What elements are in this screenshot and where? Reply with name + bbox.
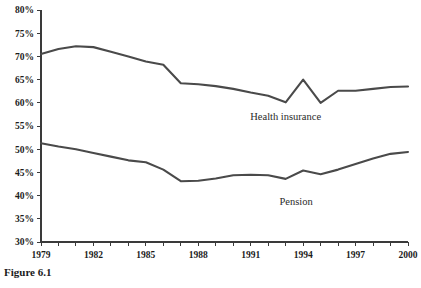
x-axis-tick-label: 1982	[84, 250, 103, 260]
data-series-line-1	[41, 46, 408, 103]
y-axis-tick-label: 35%	[15, 214, 34, 224]
y-axis-tick-label: 80%	[15, 5, 34, 15]
y-axis-tick-label: 45%	[15, 168, 34, 178]
x-axis-tick-label: 1997	[346, 250, 365, 260]
data-series-line-2	[41, 143, 408, 181]
y-axis-tick-label: 30%	[15, 237, 34, 247]
y-axis-tick-label: 60%	[15, 98, 34, 108]
x-axis-tick-label: 1994	[294, 250, 313, 260]
x-axis-tick-label: 1985	[136, 250, 155, 260]
x-axis-tick-label: 2000	[399, 250, 418, 260]
series-annotation-2: Pension	[280, 196, 314, 207]
y-axis-tick-label: 65%	[15, 75, 34, 85]
y-axis-tick-label: 55%	[15, 121, 34, 131]
line-chart: 30%35%40%45%50%55%60%65%70%75%80%1979198…	[0, 0, 421, 260]
x-axis-tick-label: 1991	[241, 250, 260, 260]
y-axis-tick-label: 70%	[15, 52, 34, 62]
y-axis-tick-label: 50%	[15, 145, 34, 155]
x-axis-tick-label: 1988	[189, 250, 208, 260]
y-axis-tick-label: 40%	[15, 191, 34, 201]
figure-caption: Figure 6.1	[4, 266, 51, 278]
series-annotation-1: Health insurance	[250, 111, 321, 122]
x-axis-tick-label: 1979	[32, 250, 51, 260]
y-axis-tick-label: 75%	[15, 29, 34, 39]
figure-container: 30%35%40%45%50%55%60%65%70%75%80%1979198…	[0, 0, 421, 288]
